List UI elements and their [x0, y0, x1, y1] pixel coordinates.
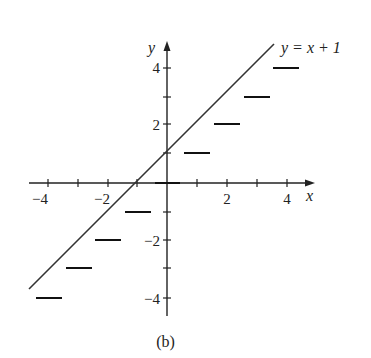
y-tick-label: 4	[153, 60, 161, 76]
line-y-equals-x-plus-1	[29, 44, 274, 289]
chart-canvas: −4 −2 2 4 x 4 2 −2 −4 y y = x + 1	[0, 0, 371, 358]
x-tick-label: 4	[283, 191, 291, 207]
y-tick-label: −4	[144, 291, 160, 307]
y-axis-label: y	[146, 39, 156, 57]
y-tick-label: −2	[144, 233, 160, 249]
line-label: y = x + 1	[279, 39, 341, 57]
x-axis-label: x	[305, 187, 313, 204]
y-axis: 4 2 −2 −4 y	[144, 39, 171, 316]
x-axis-arrow-icon	[305, 180, 315, 187]
x-tick-label: −4	[32, 191, 48, 207]
x-tick-label: −2	[94, 191, 110, 207]
x-tick-label: 2	[223, 191, 231, 207]
figure-caption: (b)	[0, 333, 331, 351]
y-axis-arrow-icon	[164, 41, 171, 51]
y-tick-label: 2	[153, 117, 161, 133]
